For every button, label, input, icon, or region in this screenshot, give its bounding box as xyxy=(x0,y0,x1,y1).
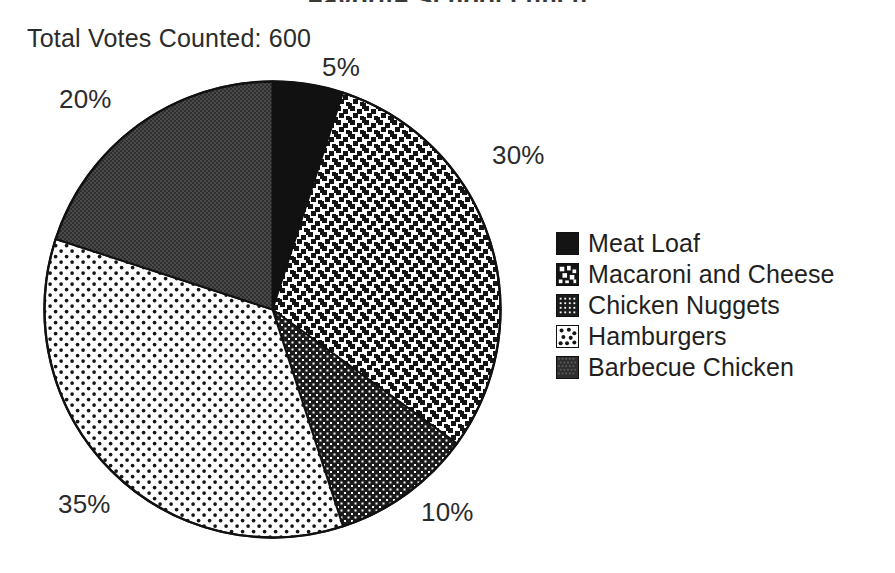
pie-svg xyxy=(42,78,503,541)
legend-swatch-small-dots-icon xyxy=(556,294,579,317)
pie-label-meat-loaf: 5% xyxy=(322,52,360,83)
legend-item-barbecue-chicken: Barbecue Chicken xyxy=(556,352,835,383)
legend: Meat Loaf Macaroni and Cheese xyxy=(556,228,835,383)
legend-label-barbecue-chicken: Barbecue Chicken xyxy=(588,355,794,380)
total-votes-caption: Total Votes Counted: 600 xyxy=(27,24,311,53)
pie-graphic xyxy=(42,78,503,541)
legend-item-meat-loaf: Meat Loaf xyxy=(556,228,835,259)
legend-label-hamburgers: Hamburgers xyxy=(588,324,727,349)
pie-label-macaroni: 30% xyxy=(492,140,545,171)
legend-swatch-dots-on-white-icon xyxy=(556,325,579,348)
legend-item-chicken-nuggets: Chicken Nuggets xyxy=(556,290,835,321)
legend-label-meat-loaf: Meat Loaf xyxy=(588,231,700,256)
legend-swatch-solid-black-icon xyxy=(556,232,579,255)
legend-swatch-large-dots-icon xyxy=(556,263,579,286)
legend-item-macaroni-and-cheese: Macaroni and Cheese xyxy=(556,259,835,290)
pie-label-hamburgers: 35% xyxy=(58,489,111,520)
chart-title: Favorite School Lunch xyxy=(0,0,895,2)
pie-label-barbecue-chicken: 20% xyxy=(59,84,112,115)
legend-swatch-dark-gray-icon xyxy=(556,356,579,379)
legend-label-macaroni-and-cheese: Macaroni and Cheese xyxy=(588,262,835,287)
legend-label-chicken-nuggets: Chicken Nuggets xyxy=(588,293,780,318)
pie-chart-figure: Favorite School Lunch Total Votes Counte… xyxy=(0,0,895,573)
pie-label-chicken-nuggets: 10% xyxy=(421,497,474,528)
legend-item-hamburgers: Hamburgers xyxy=(556,321,835,352)
